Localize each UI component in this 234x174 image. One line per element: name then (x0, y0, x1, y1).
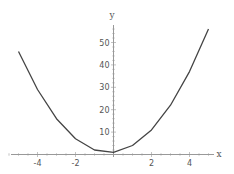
line-chart: -4-2241020304050 x y (0, 0, 234, 174)
axis-ticks (9, 29, 209, 157)
tick-labels: -4-2241020304050 (34, 39, 193, 168)
y-tick-label: 30 (99, 83, 109, 92)
y-tick-label: 40 (99, 61, 109, 70)
x-tick-label: -2 (72, 159, 80, 168)
x-tick-label: -4 (34, 159, 42, 168)
y-tick-label: 10 (99, 128, 109, 137)
y-tick-label: 50 (99, 39, 109, 48)
y-axis-label: y (108, 10, 115, 20)
y-tick-label: 20 (99, 106, 109, 115)
x-axis-label: x (216, 149, 221, 159)
x-tick-label: 4 (187, 159, 192, 168)
axes (11, 25, 214, 157)
x-tick-label: 2 (149, 159, 154, 168)
